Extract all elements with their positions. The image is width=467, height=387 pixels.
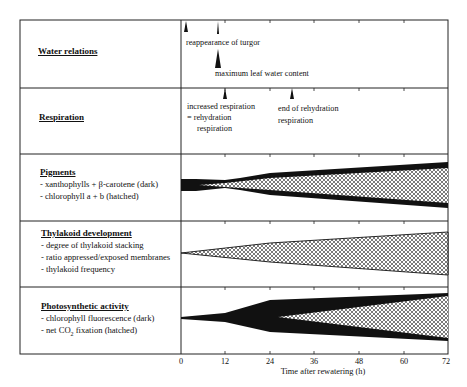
row-title-pigments: Pigments [40,166,76,178]
annotation-rehydration: = rehydration [187,112,231,123]
tick-label: 36 [310,357,318,366]
pigments-band [181,162,448,208]
tick-label: 24 [266,357,274,366]
arrow-increased-resp-icon [223,88,227,99]
annotation-turgor: reappearance of turgor [186,37,260,48]
pigments-item-1: - xanthophylls + β-carotene (dark) [40,178,158,190]
tick-label: 12 [221,357,229,366]
tick-label: 60 [400,357,408,366]
thylakoid-band [181,232,448,275]
thylakoid-item-1: - degree of thylakoid stacking [41,239,144,251]
photosynthesis-item-2: - net CO2 fixation (hatched) [41,324,137,340]
arrow-max-water-icon [215,49,221,68]
annotation-end-resp-2: respiration [278,115,313,126]
pigments-item-2: - chlorophyll a + b (hatched) [40,190,139,202]
row-title-water-relations: Water relations [38,45,97,57]
arrow-turgor-icon [184,21,188,32]
x-axis-label: Time after rewatering (h) [281,367,366,376]
annotation-increased-resp: increased respiration [187,101,255,112]
photosynthesis-band [181,293,448,341]
annotation-max-water: maximum leaf water content [215,68,309,79]
arrow-thin-icon [217,21,219,34]
thylakoid-item-3: - thylakoid frequency [41,263,115,275]
thylakoid-item-2: - ratio appressed/exposed membranes [41,251,170,263]
row-title-respiration: Respiration [39,111,84,123]
row-title-photosynthesis: Photosynthetic activity [41,300,129,312]
tick-label: 0 [179,357,183,366]
tick-label: 48 [355,357,363,366]
tick-label: 72 [442,357,450,366]
arrow-end-resp-icon [290,88,294,99]
respiration-arrows [223,88,294,99]
row-title-thylakoid: Thylakoid development [41,227,132,239]
annotation-respiration: respiration [197,123,232,134]
annotation-end-resp: end of rehydration [278,103,338,114]
photosynthesis-item-1: - chlorophyll fluorescence (dark) [41,312,154,324]
